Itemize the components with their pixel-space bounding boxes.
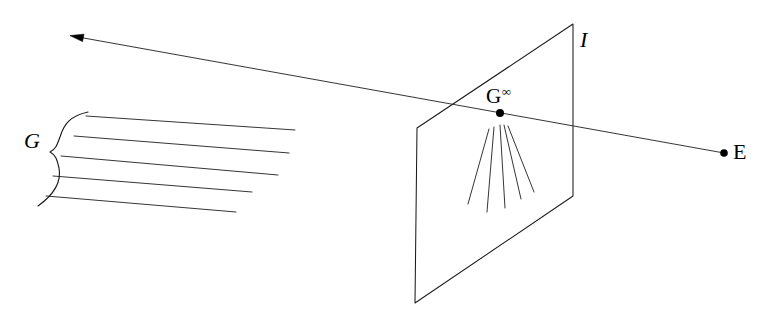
fan-line <box>500 125 505 208</box>
vanishing-fan-group <box>468 125 534 212</box>
diagram-svg <box>0 0 783 322</box>
ground-parallel-lines-group <box>46 116 295 212</box>
vanishing-point-dot <box>496 109 504 117</box>
sight-ray-line <box>78 37 724 153</box>
label-vanishing-point-superscript: ∞ <box>502 84 511 99</box>
label-vanishing-point-base: G <box>486 84 501 108</box>
label-image-plane: I <box>580 29 587 51</box>
fan-line <box>487 127 494 212</box>
label-vanishing-point: G∞ <box>486 84 510 107</box>
fan-line <box>468 129 489 204</box>
arrowhead-icon <box>70 34 84 41</box>
image-plane-quadrilateral <box>415 24 573 303</box>
figure-canvas: G I E G∞ <box>0 0 783 322</box>
curly-brace-icon <box>38 112 88 206</box>
fan-line <box>504 125 521 199</box>
parallel-line <box>46 196 236 212</box>
label-pencil-of-lines: G <box>24 130 40 152</box>
label-eye-point: E <box>733 141 746 163</box>
eye-point-dot <box>720 149 728 157</box>
parallel-line <box>86 116 295 130</box>
parallel-line <box>61 156 278 175</box>
parallel-line <box>74 136 289 153</box>
parallel-line <box>53 176 252 192</box>
